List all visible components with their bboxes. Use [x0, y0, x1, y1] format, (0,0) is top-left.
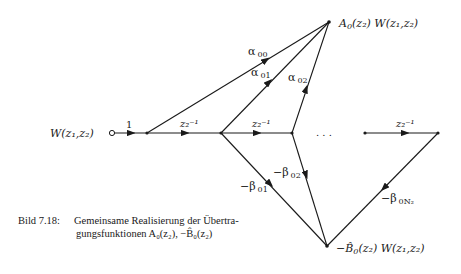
- output-top-label: A0(z₂) W(z₁,z₂): [338, 17, 418, 31]
- node-n: [436, 131, 439, 134]
- node-1: [145, 131, 148, 134]
- node-3: [290, 131, 293, 134]
- ellipsis: . . .: [316, 127, 332, 138]
- input-label: W(z₁,z₂): [50, 127, 94, 140]
- output-bottom-label: −B̂0(z₂) W(z₁,z₂): [336, 242, 425, 256]
- alpha-01-label: α01: [251, 66, 271, 80]
- caption-line-2: gungsfunktionen A₀(z₂), −B̂₀(z₂): [18, 227, 248, 240]
- beta-02-branch: [292, 133, 327, 246]
- caption-label: Bild 7.18:: [18, 214, 74, 227]
- alpha-02-label: α02: [288, 71, 308, 85]
- node-2: [219, 131, 222, 134]
- output-node-top: [327, 20, 331, 24]
- beta-01-label: −β01: [240, 180, 268, 194]
- delay-2-label: z₂⁻¹: [251, 118, 271, 129]
- gain-1: 1: [126, 119, 132, 130]
- delay-1-label: z₂⁻¹: [179, 118, 199, 129]
- beta-0N2-label: −β0N₂: [381, 192, 414, 206]
- delay-last-label: z₂⁻¹: [395, 118, 415, 129]
- figure-caption: Bild 7.18:Gemeinsame Realisierung der Üb…: [18, 214, 248, 240]
- node-n-minus-1: [363, 131, 366, 134]
- beta-0N2-branch: [327, 133, 438, 246]
- input-node: [109, 130, 114, 135]
- alpha-00-label: α00: [248, 45, 268, 59]
- output-node-bottom: [325, 244, 329, 248]
- caption-line-1: Gemeinsame Realisierung der Übertra-: [74, 215, 239, 226]
- beta-02-label: −β02: [273, 166, 301, 180]
